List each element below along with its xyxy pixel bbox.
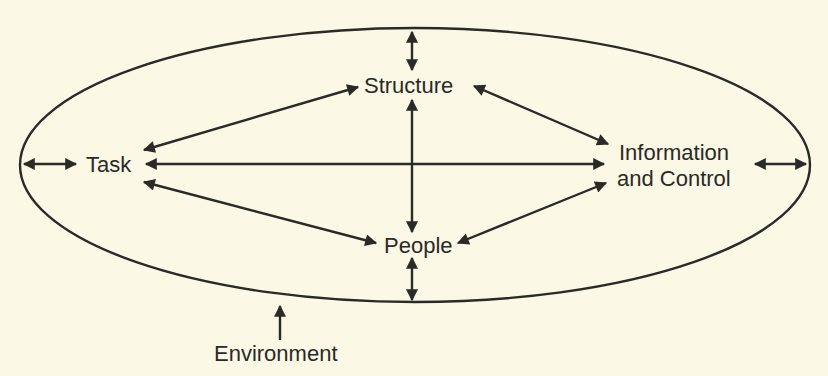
node-task: Task: [86, 152, 132, 177]
node-structure: Structure: [364, 73, 453, 98]
node-information-line2: and Control: [617, 166, 731, 191]
node-information-line1: Information: [619, 140, 729, 165]
node-people: People: [384, 233, 453, 258]
arrow-structure-info: [474, 86, 608, 144]
systems-diagram: Task Structure People Information and Co…: [0, 0, 828, 376]
arrow-people-info: [458, 183, 606, 243]
arrow-task-people: [144, 182, 376, 243]
arrow-task-structure: [144, 87, 358, 150]
environment-label: Environment: [214, 341, 338, 366]
